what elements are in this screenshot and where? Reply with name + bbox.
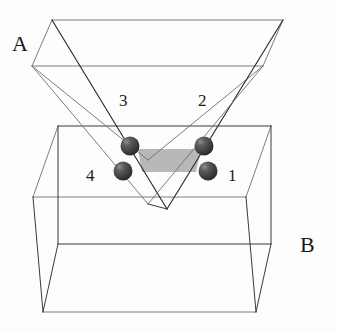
- a-left-cap-top-edge: [32, 20, 52, 66]
- label-point-1: 1: [228, 166, 237, 185]
- b-back-left-vertical: [33, 197, 43, 312]
- sphere-marker-2[interactable]: [195, 137, 214, 156]
- b-top-right-receding-edge: [246, 126, 271, 197]
- b-bottom-right-receding-edge: [256, 244, 271, 312]
- upper-prism-a: [32, 20, 283, 209]
- label-point-2: 2: [198, 91, 207, 110]
- b-top-left-receding-edge: [33, 126, 58, 197]
- label-prism-a: A: [12, 31, 28, 56]
- b-bottom-left-receding-edge: [43, 244, 58, 312]
- sphere-marker-4[interactable]: [114, 162, 133, 181]
- label-prism-b: B: [300, 232, 315, 257]
- sphere-marker-1[interactable]: [199, 162, 218, 181]
- a-front-right-slope: [167, 20, 283, 209]
- a-right-cap-top-edge: [263, 20, 283, 66]
- b-back-right-vertical: [246, 197, 256, 312]
- a-front-left-slope: [52, 20, 167, 209]
- sphere-marker-3[interactable]: [121, 137, 140, 156]
- figure-canvas: A B 3 2 4 1: [0, 0, 337, 331]
- label-point-3: 3: [119, 91, 128, 110]
- wireframe-diagram: A B 3 2 4 1: [0, 0, 337, 331]
- a-back-right-slope: [148, 66, 263, 204]
- label-point-4: 4: [86, 166, 95, 185]
